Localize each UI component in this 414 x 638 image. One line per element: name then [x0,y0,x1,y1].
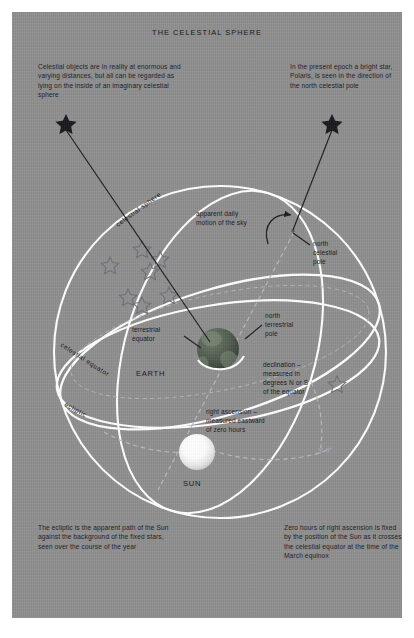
note-bottom-left: The ecliptic is the apparent path of the… [38,523,178,551]
sun-body [179,434,215,470]
label-apparent-daily-motion: apparent daily motion of the sky [196,210,288,228]
page-title: THE CELESTIAL SPHERE [12,28,402,37]
label-north-celestial-pole: north celestial pole [313,240,373,267]
black-star-markers [55,114,342,134]
leader-line-left [66,130,210,342]
illustration-page: celestial sphere celestial equator eclip… [0,0,414,638]
label-celestial-sphere: celestial sphere [114,191,162,229]
note-bottom-right: Zero hours of right ascension is fixed b… [284,523,402,560]
star-icon [141,263,158,280]
label-right-ascension: right ascension – measured eastward of z… [206,408,298,435]
diagram-panel: celestial sphere celestial equator eclip… [12,12,402,618]
label-north-terrestrial-pole: north terrestrial pole [265,312,327,339]
ncp-callout-line [293,233,310,245]
note-top-right: In the present epoch a bright star, Pola… [290,62,400,90]
right-ascension-arc [197,445,332,460]
label-sun: SUN [183,480,201,489]
label-declination: declination – measured in degrees N or S… [263,361,345,397]
ntp-callout-line [245,325,262,339]
label-terrestrial-equator: terrestrial equator [132,326,190,344]
star-icon [101,257,118,274]
star-icon [55,114,76,134]
earth-body [196,328,244,370]
star-icon [133,241,150,258]
curve-labels: celestial sphere celestial equator eclip… [59,191,163,420]
note-top-left: Celestial objects are in reality at enor… [38,62,183,99]
label-earth: EARTH [136,370,165,379]
